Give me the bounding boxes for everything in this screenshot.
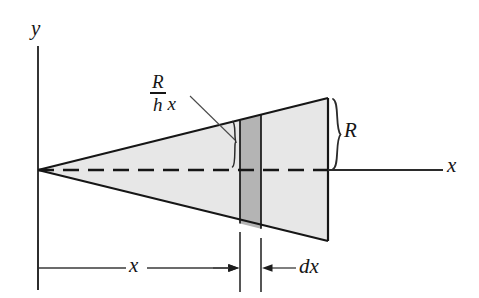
slice-radius-formula-label: R h x xyxy=(150,72,176,114)
fraction-numerator: R xyxy=(150,72,166,92)
x-distance-label: x xyxy=(129,255,138,276)
cone-body-shape xyxy=(38,98,328,241)
fraction-multiplier-variable: x xyxy=(168,94,176,114)
base-radius-brace xyxy=(333,99,341,169)
slice-element-shape xyxy=(240,115,261,229)
base-radius-label: R xyxy=(344,120,357,141)
y-axis-label: y xyxy=(31,18,40,39)
diagram-canvas xyxy=(0,0,479,298)
dx-right-arrowhead xyxy=(262,264,273,272)
fraction-R-over-h: R h xyxy=(150,72,166,114)
dx-left-arrowhead xyxy=(229,264,239,272)
x-axis-label: x xyxy=(447,155,456,176)
fraction-denominator: h xyxy=(151,94,165,114)
thickness-label: dx xyxy=(299,256,319,277)
cone-volume-diagram: y x R dx x R h x xyxy=(0,0,479,298)
